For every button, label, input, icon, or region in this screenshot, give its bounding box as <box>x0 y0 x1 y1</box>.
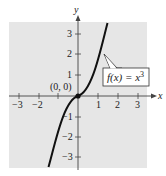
y-tick-label: −2 <box>62 131 73 142</box>
cubic-function-graph: x y −3 −2 1 2 3 3 2 1 −1 −2 −3 (0, 0) f <box>0 0 166 176</box>
function-label: f(x) = x3 <box>107 70 144 84</box>
origin-label: (0, 0) <box>50 81 72 93</box>
y-tick-label: 1 <box>67 69 72 80</box>
function-label-exponent: 3 <box>140 70 144 79</box>
y-tick-label: 3 <box>67 28 72 39</box>
x-axis-arrow-icon <box>151 94 157 99</box>
origin-point <box>75 93 80 98</box>
x-tick-label: −2 <box>32 99 43 110</box>
function-label-base: f(x) = x <box>107 71 140 84</box>
x-tick-label: 2 <box>115 99 120 110</box>
y-tick-label: 2 <box>67 48 72 59</box>
y-tick-label: −3 <box>62 151 73 162</box>
y-axis-arrow-icon <box>76 15 81 21</box>
x-tick-label: 3 <box>135 99 140 110</box>
x-axis-label: x <box>157 90 163 101</box>
y-axis-label: y <box>73 4 79 15</box>
x-tick-label: 1 <box>96 99 101 110</box>
x-tick-label: −3 <box>12 99 23 110</box>
